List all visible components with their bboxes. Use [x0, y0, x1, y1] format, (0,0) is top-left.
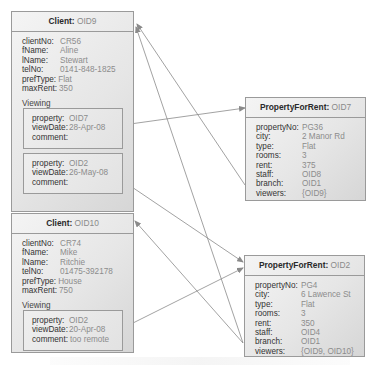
- class-name: PropertyForRent:: [260, 102, 329, 112]
- attribute-row: lName:Ritchie: [22, 258, 133, 267]
- attribute-row: staff:OID4: [255, 328, 364, 337]
- attribute-row: clientNo:CR56: [22, 37, 133, 46]
- attribute-row: fName:Aline: [22, 46, 133, 55]
- attribute-row: rent:350: [255, 319, 364, 328]
- object-id: OID2: [331, 260, 351, 270]
- arrow-viewing-to-oid7: [123, 108, 245, 125]
- attribute-row: maxRent:350: [22, 84, 133, 93]
- attribute-row: telNo:01475-392178: [22, 267, 133, 276]
- attribute-row: branch:OID1: [256, 179, 365, 188]
- attribute-row: type:Flat: [256, 142, 365, 151]
- attribute-row: rooms:3: [256, 151, 365, 160]
- attribute-row: propertyNo:PG4: [255, 281, 364, 290]
- object-id: OID9: [77, 16, 97, 26]
- attribute-row: city:6 Lawence St: [255, 290, 364, 299]
- attribute-row: propertyNo:PG36: [256, 123, 365, 132]
- class-name: PropertyForRent:: [259, 260, 328, 270]
- object-header: PropertyForRent: OID2: [245, 256, 364, 276]
- attribute-row: clientNo:CR74: [22, 239, 133, 248]
- class-name: Client:: [49, 16, 75, 26]
- arrow-viewing10-to-oid2: [123, 268, 243, 328]
- object-header: Client: OID9: [12, 12, 133, 32]
- object-id: OID10: [75, 218, 99, 228]
- arrow-oid2-viewers-to-client9: [136, 27, 243, 343]
- viewing-record: property:OID2 viewDate:20-Apr-08 comment…: [23, 310, 123, 351]
- object-id: OID7: [332, 102, 352, 112]
- attribute-row: prefType:House: [22, 277, 133, 286]
- viewing-record: property:OID7 viewDate:28-Apr-08 comment…: [23, 108, 123, 149]
- attribute-list: propertyNo:PG36 city:2 Manor Rd type:Fla…: [246, 118, 365, 198]
- attribute-row: branch:OID1: [255, 337, 364, 346]
- faded-caption-strip: [50, 357, 350, 365]
- arrow-oid2-viewers-to-client10: [135, 221, 243, 343]
- arrow-oid7-viewers-to-client9: [137, 24, 245, 185]
- viewing-record: property:OID2 viewDate:26-May-08 comment…: [23, 153, 123, 194]
- attribute-list: clientNo:CR56 fName:Aline lName:Stewart …: [12, 32, 133, 93]
- attribute-row: lName:Stewart: [22, 56, 133, 65]
- attribute-row: type:Flat: [255, 300, 364, 309]
- attribute-row: telNo:0141-848-1825: [22, 65, 133, 74]
- attribute-row: rooms:3: [255, 309, 364, 318]
- object-header: PropertyForRent: OID7: [246, 98, 365, 118]
- property-object-oid2: PropertyForRent: OID2 propertyNo:PG4 cit…: [244, 255, 365, 357]
- attribute-row: rent:375: [256, 161, 365, 170]
- attribute-row: staff:OID8: [256, 170, 365, 179]
- attribute-row: maxRent:750: [22, 286, 133, 295]
- attribute-list: propertyNo:PG4 city:6 Lawence St type:Fl…: [245, 276, 364, 356]
- object-header: Client: OID10: [12, 214, 133, 234]
- attribute-row: viewers:{OID9, OID10}: [255, 347, 364, 356]
- attribute-row: viewers:{OID9}: [256, 189, 365, 198]
- class-name: Client:: [46, 218, 72, 228]
- property-object-oid7: PropertyForRent: OID7 propertyNo:PG36 ci…: [245, 97, 366, 201]
- attribute-row: city:2 Manor Rd: [256, 132, 365, 141]
- arrow-viewing-to-oid2: [123, 181, 243, 262]
- attribute-row: fName:Mike: [22, 248, 133, 257]
- attribute-list: clientNo:CR74 fName:Mike lName:Ritchie t…: [12, 234, 133, 295]
- attribute-row: prefType:Flat: [22, 75, 133, 84]
